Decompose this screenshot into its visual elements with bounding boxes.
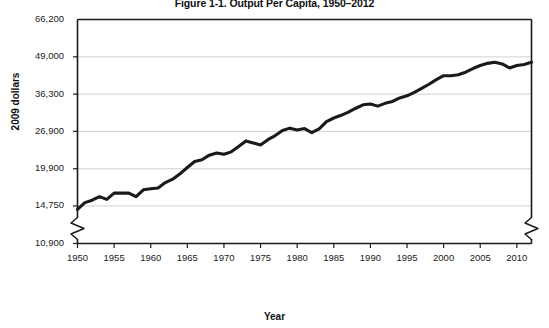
- gridlines: [78, 57, 532, 244]
- chart-figure: Figure 1-1. Output Per Capita, 1950–2012…: [0, 0, 549, 328]
- data-series-line: [78, 62, 532, 209]
- plot-area: [0, 0, 549, 328]
- axis-break-marks: [71, 218, 538, 240]
